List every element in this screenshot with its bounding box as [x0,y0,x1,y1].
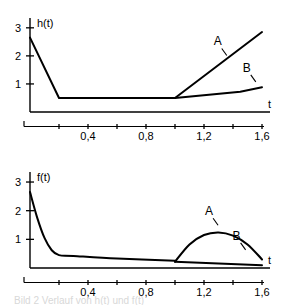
chart-f-of-t: 0,40,81,21,6123f(t)tAB [0,150,285,305]
series-curve-B [175,262,262,265]
x-axis-title: t [268,254,271,266]
y-axis-title: h(t) [37,17,54,29]
leader-line-B [241,243,246,250]
series-curve-A [175,232,262,261]
figure-root: 0,40,81,21,6123h(t)tAB 0,40,81,21,6123f(… [0,0,285,305]
y-tick-label: 1 [15,233,21,245]
x-axis-title: t [268,98,271,110]
y-tick-label: 3 [15,22,21,34]
leader-line-B [251,75,256,82]
x-tick-label: 0,4 [80,130,95,142]
x-tick-label: 1,6 [254,130,269,142]
leader-line-A [222,48,227,55]
curve-label-B: B [243,61,251,75]
series-curve-common [30,192,175,261]
y-tick-label: 3 [15,176,21,188]
chart-h-of-t: 0,40,81,21,6123h(t)tAB [0,0,285,150]
figure-caption-text: Bild 2 Verlauf von h(t) und f(t) [0,296,285,305]
chart-h-of-t-svg: 0,40,81,21,6123h(t)tAB [0,0,285,150]
x-tick-label: 0,8 [138,130,153,142]
figure-caption: Bild 2 Verlauf von h(t) und f(t) [0,296,285,305]
y-tick-label: 1 [15,78,21,90]
x-tick-label: 1,2 [196,130,211,142]
chart-f-of-t-svg: 0,40,81,21,6123f(t)tAB [0,150,285,305]
y-axis-title: f(t) [37,171,50,183]
series-curve-common [30,38,175,98]
curve-label-A: A [205,204,213,218]
curve-label-B: B [233,229,241,243]
curve-label-A: A [214,34,222,48]
y-tick-label: 2 [15,50,21,62]
y-tick-label: 2 [15,205,21,217]
leader-line-A [213,218,218,225]
